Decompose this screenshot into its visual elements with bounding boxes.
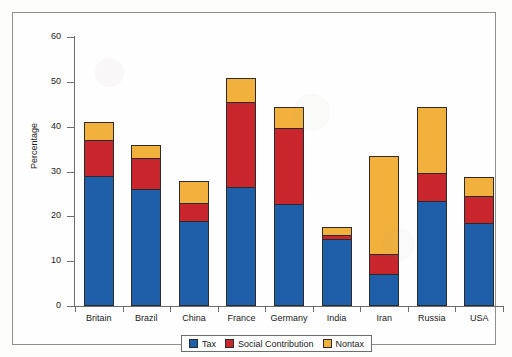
y-axis-tick <box>67 306 74 307</box>
bar-segment-tax[interactable] <box>417 201 447 306</box>
bar-segment-social-contribution[interactable] <box>226 102 256 187</box>
stacked-bar[interactable] <box>369 156 399 306</box>
bar-slot[interactable] <box>265 37 313 306</box>
bar-segment-social-contribution[interactable] <box>369 254 399 274</box>
x-axis-tick <box>408 306 409 312</box>
y-axis-tick <box>67 37 74 38</box>
bar-segment-social-contribution[interactable] <box>464 196 494 222</box>
stacked-bar[interactable] <box>131 145 161 306</box>
bar-segment-social-contribution[interactable] <box>84 140 114 176</box>
bar-segment-nontax[interactable] <box>464 177 494 196</box>
bar-segment-tax[interactable] <box>464 223 494 306</box>
y-axis-tick-label: 30 <box>21 166 61 176</box>
legend-swatch-icon <box>225 339 234 348</box>
stacked-bar[interactable] <box>274 107 304 306</box>
bar-segment-nontax[interactable] <box>179 181 209 203</box>
x-axis-tick <box>170 306 171 312</box>
legend-label: Nontax <box>336 339 365 349</box>
y-axis-tick-label: 40 <box>21 121 61 131</box>
stacked-bar[interactable] <box>322 227 352 306</box>
stacked-bar[interactable] <box>417 107 447 306</box>
bar-segment-tax[interactable] <box>274 204 304 306</box>
bar-slot[interactable] <box>313 37 361 306</box>
x-axis-tick-label: Iran <box>360 313 408 323</box>
legend-label: Tax <box>202 339 216 349</box>
x-axis-tick <box>503 306 504 312</box>
bar-segment-tax[interactable] <box>322 239 352 306</box>
bar-segment-tax[interactable] <box>226 187 256 306</box>
y-axis-tick-label: 20 <box>21 210 61 220</box>
x-axis-tick <box>455 306 456 312</box>
x-axis-tick-label: France <box>218 313 266 323</box>
bar-slot[interactable] <box>408 37 456 306</box>
bar-slot[interactable] <box>456 37 504 306</box>
y-axis-tick <box>67 82 74 83</box>
bar-slot[interactable] <box>218 37 266 306</box>
bar-segment-tax[interactable] <box>369 274 399 306</box>
bar-slot[interactable] <box>75 37 123 306</box>
legend-swatch-icon <box>323 339 332 348</box>
x-axis-tick-label: Brazil <box>123 313 171 323</box>
stacked-bar[interactable] <box>226 78 256 306</box>
bar-segment-nontax[interactable] <box>84 122 114 140</box>
stacked-bar[interactable] <box>179 181 209 306</box>
y-axis-tick-label: 50 <box>21 76 61 86</box>
bar-segment-tax[interactable] <box>179 221 209 306</box>
chart-canvas: Percentage 0102030405060 BritainBrazilCh… <box>13 13 495 344</box>
bar-segment-tax[interactable] <box>131 189 161 306</box>
bar-segment-nontax[interactable] <box>369 156 399 254</box>
x-axis-labels: BritainBrazilChinaFranceGermanyIndiaIran… <box>75 313 503 323</box>
bar-segment-nontax[interactable] <box>226 78 256 102</box>
y-axis-tick <box>67 172 74 173</box>
y-axis-tick-label: 0 <box>21 300 61 310</box>
x-axis-tick-label: India <box>313 313 361 323</box>
chart-root: Percentage 0102030405060 BritainBrazilCh… <box>0 0 512 357</box>
x-axis-tick <box>218 306 219 312</box>
x-axis-tick-label: USA <box>456 313 504 323</box>
stacked-bar[interactable] <box>464 177 494 306</box>
y-axis-tick <box>67 216 74 217</box>
y-axis-tick-label: 60 <box>21 31 61 41</box>
legend-swatch-icon <box>189 339 198 348</box>
x-axis-tick <box>360 306 361 312</box>
bar-slot[interactable] <box>360 37 408 306</box>
bar-segment-tax[interactable] <box>84 176 114 306</box>
legend-item[interactable]: Nontax <box>323 339 365 349</box>
x-axis-tick-label: Britain <box>75 313 123 323</box>
y-axis-tick-label: 10 <box>21 255 61 265</box>
y-axis-tick <box>67 261 74 262</box>
x-axis-tick-label: China <box>170 313 218 323</box>
bar-segment-social-contribution[interactable] <box>131 158 161 189</box>
bar-segment-nontax[interactable] <box>322 227 352 235</box>
x-axis-tick <box>313 306 314 312</box>
bar-group <box>75 37 503 306</box>
chart-legend: TaxSocial ContributionNontax <box>181 335 372 352</box>
x-axis-tick-label: Germany <box>265 313 313 323</box>
legend-label: Social Contribution <box>238 339 314 349</box>
bar-segment-nontax[interactable] <box>131 145 161 158</box>
bar-segment-nontax[interactable] <box>274 107 304 128</box>
x-axis-tick <box>123 306 124 312</box>
x-axis-line <box>74 306 504 307</box>
legend-item[interactable]: Tax <box>189 339 216 349</box>
legend-item[interactable]: Social Contribution <box>225 339 314 349</box>
bar-segment-social-contribution[interactable] <box>179 203 209 221</box>
x-axis-tick <box>75 306 76 312</box>
bar-segment-nontax[interactable] <box>417 107 447 173</box>
chart-frame: Percentage 0102030405060 BritainBrazilCh… <box>12 12 496 345</box>
x-axis-tick-label: Russia <box>408 313 456 323</box>
y-axis-tick <box>67 127 74 128</box>
bar-segment-social-contribution[interactable] <box>274 128 304 204</box>
x-axis-tick <box>265 306 266 312</box>
bar-slot[interactable] <box>170 37 218 306</box>
stacked-bar[interactable] <box>84 122 114 306</box>
y-axis-title: Percentage <box>29 101 39 191</box>
bar-slot[interactable] <box>123 37 171 306</box>
bar-segment-social-contribution[interactable] <box>417 173 447 201</box>
